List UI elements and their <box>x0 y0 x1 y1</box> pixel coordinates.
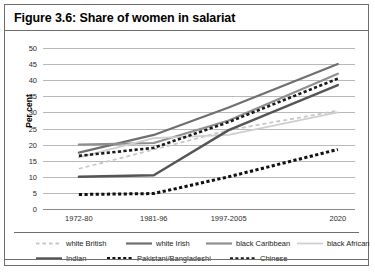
legend-swatch-icon <box>206 238 232 249</box>
plot-area: Per cent 05101520253035404550 1972-80198… <box>43 48 355 209</box>
x-tick-label-2: 1997-2005 <box>211 214 247 223</box>
y-tick-label-35: 35 <box>0 92 37 101</box>
y-tick-label-15: 15 <box>0 157 37 166</box>
x-tick-label-1: 1981-96 <box>140 214 168 223</box>
y-tick-label-10: 10 <box>0 173 37 182</box>
series-line-3 <box>79 112 338 157</box>
figure-title: Figure 3.6: Share of women in salariat <box>14 11 235 25</box>
legend-label: white Irish <box>156 239 190 248</box>
y-tick-label-0: 0 <box>0 205 37 214</box>
y-tick-label-5: 5 <box>0 189 37 198</box>
title-divider <box>5 30 368 31</box>
legend-label: white British <box>66 239 106 248</box>
y-tick-label-40: 40 <box>0 76 37 85</box>
series-line-0 <box>79 111 338 169</box>
legend-label: black African <box>327 239 370 248</box>
x-tick-label-0: 1972-80 <box>65 214 93 223</box>
legend-item-3[interactable]: black African <box>297 236 370 251</box>
figure-container: Figure 3.6: Share of women in salariat P… <box>4 4 369 266</box>
legend-item-1[interactable]: white Irish <box>126 236 190 251</box>
y-tick-label-30: 30 <box>0 108 37 117</box>
series-line-2 <box>79 74 338 145</box>
x-tick-label-3: 2020 <box>329 214 346 223</box>
bottom-divider <box>5 259 368 260</box>
legend-row-1: white Britishwhite Irishblack Caribbeanb… <box>14 236 359 251</box>
legend-divider <box>14 232 359 233</box>
y-tick-label-25: 25 <box>0 125 37 134</box>
y-tick-label-45: 45 <box>0 60 37 69</box>
legend-swatch-icon <box>297 238 323 249</box>
legend-swatch-icon <box>36 238 62 249</box>
legend-item-0[interactable]: white British <box>36 236 106 251</box>
y-tick-label-20: 20 <box>0 141 37 150</box>
y-tick-label-50: 50 <box>0 44 37 53</box>
legend-item-2[interactable]: black Caribbean <box>206 236 290 251</box>
gridline-0 <box>43 209 355 210</box>
series-line-5 <box>79 149 338 194</box>
series-lines <box>43 48 355 209</box>
legend-label: black Caribbean <box>236 239 290 248</box>
series-line-1 <box>79 64 338 153</box>
legend-swatch-icon <box>126 238 152 249</box>
series-line-4 <box>79 85 338 177</box>
